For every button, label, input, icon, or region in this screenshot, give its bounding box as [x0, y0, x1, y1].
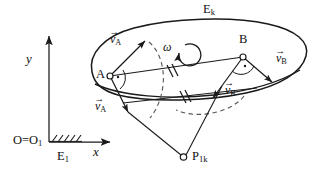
origin-label: O=O1 [13, 134, 42, 148]
vector-label-va-rotated: →vA [110, 33, 121, 47]
omega-rotation-arc [179, 44, 201, 66]
point-label-p1k-sub: 1k [199, 154, 208, 164]
x-axis-label: x [93, 145, 99, 158]
point-marker-b [240, 54, 246, 60]
body-label: Ek [203, 3, 215, 17]
vector-sub-va-rotated: A [115, 38, 121, 47]
body-label-sub: k [211, 7, 215, 17]
omega-label: ω [163, 41, 171, 53]
figure-canvas: y x O=O1 E1 Ek ω A B P1k →vA →vA →vB →vB [0, 0, 326, 178]
point-label-a: A [96, 68, 105, 81]
point-label-p1k: P1k [192, 150, 207, 164]
ground-frame-label: E1 [57, 150, 69, 164]
instant-centre-rays [128, 86, 222, 155]
vector-arrow-vb-rotated: → [225, 79, 234, 88]
rigid-body-outline [91, 19, 306, 100]
vector-label-vb: →vB [276, 52, 287, 66]
body-label-text: E [203, 2, 211, 16]
vector-arrow-va: → [95, 95, 104, 104]
vector-label-vb-rotated: →vB [225, 84, 236, 98]
vector-sub-vb: B [281, 57, 286, 66]
point-label-b: B [239, 33, 247, 46]
ground-frame-label-text: E [57, 149, 65, 163]
right-angle-marker-a [120, 70, 125, 89]
kinematics-diagram [0, 0, 326, 178]
point-label-p1k-text: P [192, 149, 199, 163]
ground-hatching [49, 135, 82, 142]
origin-label-text: O=O [13, 133, 38, 147]
origin-label-sub: 1 [38, 138, 42, 148]
y-axis-label: y [26, 52, 32, 65]
vector-arrow-vb: → [276, 47, 285, 56]
vector-label-va: →vA [95, 100, 106, 114]
right-angle-dot-a [117, 76, 119, 78]
point-marker-a [107, 73, 113, 79]
vector-arrow-va-rotated: → [110, 28, 119, 37]
vector-sub-va: A [100, 105, 106, 114]
vector-sub-vb-rotated: B [230, 89, 235, 98]
coordinate-axes [49, 36, 110, 142]
vector-vb [243, 57, 272, 82]
ground-frame-label-sub: 1 [65, 154, 69, 164]
right-angle-dot-b [244, 65, 246, 67]
point-marker-p1k [180, 154, 186, 160]
